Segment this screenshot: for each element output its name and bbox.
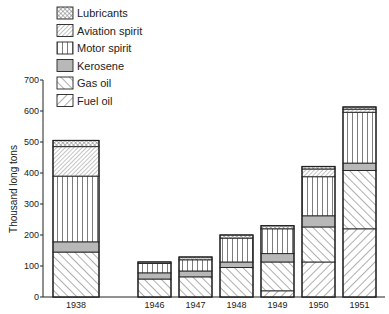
legend-label: Aviation spirit: [77, 25, 142, 37]
segment-gas-oil: [138, 279, 171, 297]
segment-motor-spirit: [179, 260, 212, 271]
segment-fuel-oil: [302, 262, 335, 297]
legend-item: Kerosene: [57, 60, 124, 72]
bar-1946: [138, 262, 171, 297]
x-tick-label: 1949: [267, 300, 287, 310]
y-tick-label: 200: [24, 230, 39, 240]
legend-item: Lubricants: [57, 7, 128, 19]
segment-motor-spirit: [220, 238, 253, 262]
legend-label: Lubricants: [77, 7, 128, 19]
x-tick-label: 1938: [66, 300, 86, 310]
y-tick-label: 500: [24, 137, 39, 147]
segment-kerosene: [220, 262, 253, 268]
legend-swatch: [57, 25, 73, 37]
segment-fuel-oil: [261, 291, 294, 297]
y-tick-label: 300: [24, 199, 39, 209]
legend-item: Motor spirit: [57, 42, 131, 54]
x-tick-label: 1947: [185, 300, 205, 310]
stacked-bar-chart: LubricantsAviation spiritMotor spiritKer…: [0, 0, 389, 314]
legend-swatch: [57, 77, 73, 89]
segment-aviation-spirit: [302, 169, 335, 177]
segment-gas-oil: [302, 227, 335, 262]
segment-gas-oil: [53, 252, 99, 297]
bar-1938: [53, 140, 99, 297]
segment-motor-spirit: [302, 177, 335, 216]
segment-gas-oil: [179, 277, 212, 297]
segment-fuel-oil: [343, 229, 376, 297]
x-tick-label: 1951: [349, 300, 369, 310]
x-tick-label: 1948: [226, 300, 246, 310]
segment-motor-spirit: [261, 229, 294, 254]
segment-kerosene: [302, 216, 335, 227]
x-tick-label: 1946: [144, 300, 164, 310]
segment-kerosene: [343, 163, 376, 170]
x-tick-label: 1950: [308, 300, 328, 310]
legend-label: Motor spirit: [77, 42, 131, 54]
y-tick-label: 600: [24, 106, 39, 116]
bar-1950: [302, 166, 335, 297]
legend-item: Fuel oil: [57, 95, 112, 107]
legend-label: Kerosene: [77, 60, 124, 72]
segment-kerosene: [261, 254, 294, 262]
y-tick-label: 400: [24, 168, 39, 178]
legend-swatch: [57, 7, 73, 19]
bar-1947: [179, 257, 212, 297]
segment-gas-oil: [343, 171, 376, 229]
segment-aviation-spirit: [343, 109, 376, 112]
bars: [53, 107, 376, 297]
legend-label: Gas oil: [77, 77, 111, 89]
y-axis-label: Thousand long tons: [8, 145, 19, 233]
legend-swatch: [57, 42, 73, 54]
segment-gas-oil: [261, 262, 294, 291]
segment-kerosene: [138, 273, 171, 279]
x-axis-labels: 1938194619471948194919501951: [66, 300, 370, 310]
segment-kerosene: [179, 271, 212, 277]
bar-1951: [343, 107, 376, 297]
segment-kerosene: [53, 242, 99, 252]
y-tick-label: 700: [24, 75, 39, 85]
segment-aviation-spirit: [53, 147, 99, 176]
bar-1949: [261, 226, 294, 297]
segment-gas-oil: [220, 268, 253, 297]
legend: LubricantsAviation spiritMotor spiritKer…: [57, 7, 142, 107]
legend-item: Gas oil: [57, 77, 111, 89]
segment-lubricants: [53, 140, 99, 146]
bar-1948: [220, 235, 253, 297]
y-tick-label: 0: [34, 292, 39, 302]
legend-item: Aviation spirit: [57, 25, 142, 37]
y-tick-label: 100: [24, 261, 39, 271]
legend-swatch: [57, 60, 73, 72]
legend-swatch: [57, 95, 73, 107]
segment-motor-spirit: [138, 264, 171, 273]
segment-motor-spirit: [343, 112, 376, 163]
legend-label: Fuel oil: [77, 95, 112, 107]
segment-motor-spirit: [53, 176, 99, 242]
